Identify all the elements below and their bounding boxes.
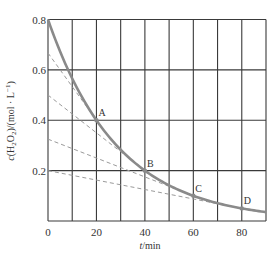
- point-marker-b: [143, 168, 147, 172]
- point-marker-a: [94, 118, 98, 122]
- grid-lines: [48, 20, 266, 222]
- x-axis-label: t/min: [139, 240, 160, 251]
- y-axis-label: c(H2O2)/(mol · L−1): [4, 81, 18, 160]
- y-tick-label: 0.6: [32, 64, 46, 76]
- x-tick-label: 80: [236, 226, 248, 238]
- x-tick-label: 60: [188, 226, 200, 238]
- x-tick-label: 40: [139, 226, 151, 238]
- x-tick-labels: 020406080: [45, 226, 248, 238]
- decay-curve: [48, 20, 266, 213]
- x-tick-label: 20: [91, 226, 103, 238]
- point-marker-d: [240, 206, 244, 210]
- decay-curve-path: [48, 20, 266, 213]
- y-tick-label: 0.2: [32, 165, 46, 177]
- y-tick-label: 0.8: [32, 14, 46, 26]
- chart: ABCD 020406080 0.20.40.60.8 t/min c(H2O2…: [0, 0, 275, 256]
- x-tick-label: 0: [45, 226, 51, 238]
- point-label-b: B: [147, 158, 154, 169]
- point-label-a: A: [98, 107, 106, 118]
- y-tick-labels: 0.20.40.60.8: [32, 14, 46, 177]
- point-label-d: D: [244, 195, 251, 206]
- point-label-c: C: [195, 183, 202, 194]
- y-tick-label: 0.4: [32, 114, 46, 126]
- point-marker-c: [191, 194, 195, 198]
